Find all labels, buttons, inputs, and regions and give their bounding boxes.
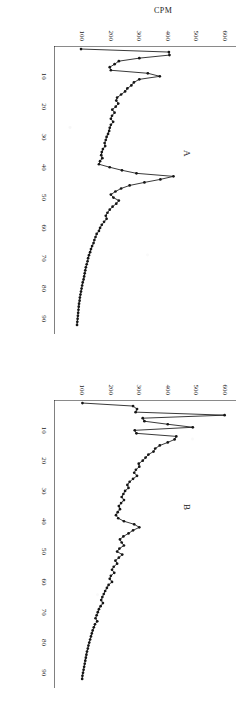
y-tick-label: 600 (221, 19, 229, 41)
x-tick-label: 40 (40, 159, 48, 175)
axes-b (54, 400, 236, 688)
data-series-b (81, 402, 226, 681)
x-tick-label: 90 (40, 311, 48, 327)
x-tick-label: 70 (40, 604, 48, 620)
x-tick-label: 10 (40, 68, 48, 84)
x-tick-label: 10 (40, 422, 48, 438)
y-tick-label: 100 (78, 19, 86, 41)
x-tick-label: 60 (40, 220, 48, 236)
y-tick-label: 100 (78, 373, 86, 395)
x-tick-label: 90 (40, 665, 48, 681)
x-tick-label: 50 (40, 190, 48, 206)
line-chart-b (54, 400, 236, 688)
x-tick-label: 30 (40, 129, 48, 145)
x-tick-label: 20 (40, 453, 48, 469)
chart-panel-b: B 100200300400500600 102030405060708090 (0, 354, 250, 708)
y-tick-label: 600 (221, 373, 229, 395)
x-tick-label: 80 (40, 635, 48, 651)
y-tick-label: 200 (107, 373, 115, 395)
plot-area-b (54, 400, 236, 688)
y-tick-label: 500 (192, 373, 200, 395)
scanned-figure: A CPM 100200300400500600 102030405060708… (0, 0, 250, 708)
line-chart-a (54, 46, 236, 334)
chart-panel-a: A CPM 100200300400500600 102030405060708… (0, 0, 250, 354)
y-tick-label: 400 (164, 373, 172, 395)
x-tick-label: 60 (40, 574, 48, 590)
y-axis-label-cpm: CPM (154, 6, 172, 15)
y-tick-label: 300 (135, 19, 143, 41)
y-tick-label: 400 (164, 19, 172, 41)
y-tick-label: 300 (135, 373, 143, 395)
x-tick-label: 20 (40, 99, 48, 115)
x-tick-label: 80 (40, 281, 48, 297)
y-tick-label: 500 (192, 19, 200, 41)
data-series-a (76, 48, 175, 327)
x-tick-label: 50 (40, 544, 48, 560)
x-tick-label: 30 (40, 483, 48, 499)
y-tick-label: 200 (107, 19, 115, 41)
x-tick-label: 40 (40, 513, 48, 529)
x-tick-label: 70 (40, 250, 48, 266)
plot-area-a (54, 46, 236, 334)
